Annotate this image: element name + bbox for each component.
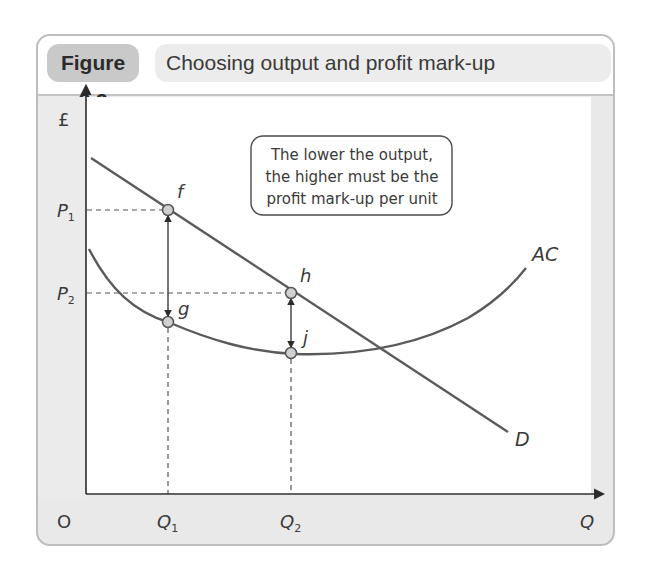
callout-line-3: profit mark-up per unit bbox=[266, 190, 437, 208]
x-axis-label: Q bbox=[580, 511, 594, 532]
callout-line-1: The lower the output, bbox=[270, 146, 433, 164]
point-f bbox=[163, 205, 174, 216]
point-h bbox=[286, 288, 297, 299]
label-ac: AC bbox=[530, 243, 559, 265]
label-d: D bbox=[515, 428, 530, 450]
label-h: h bbox=[300, 265, 311, 286]
label-g: g bbox=[178, 298, 189, 319]
y-axis-label: £ bbox=[58, 109, 69, 130]
point-j bbox=[286, 348, 297, 359]
tick-q2: Q2 bbox=[280, 511, 301, 535]
chart-svg: f g h j AC D £ O Q P1 P2 Q1 Q2 The lower… bbox=[0, 0, 645, 587]
origin-label: O bbox=[57, 511, 71, 532]
point-g bbox=[163, 317, 174, 328]
callout-line-2: the higher must be the bbox=[266, 168, 439, 186]
tick-q1: Q1 bbox=[157, 511, 178, 535]
